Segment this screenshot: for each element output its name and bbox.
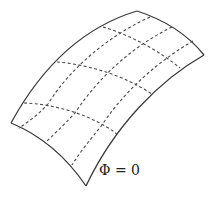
grid-line-b1 xyxy=(19,17,150,128)
edge-top-left xyxy=(11,11,137,123)
phi-equals-zero-label: Φ = 0 xyxy=(99,162,140,178)
edge-bottom-left xyxy=(11,123,86,186)
grid-line-a1 xyxy=(103,27,180,68)
dashed-grid xyxy=(19,17,193,165)
edge-top-right xyxy=(137,11,204,55)
grid-line-b2 xyxy=(45,27,172,143)
surface-outline xyxy=(11,11,204,186)
grid-line-b3 xyxy=(72,41,193,165)
grid-line-a2 xyxy=(57,62,153,95)
